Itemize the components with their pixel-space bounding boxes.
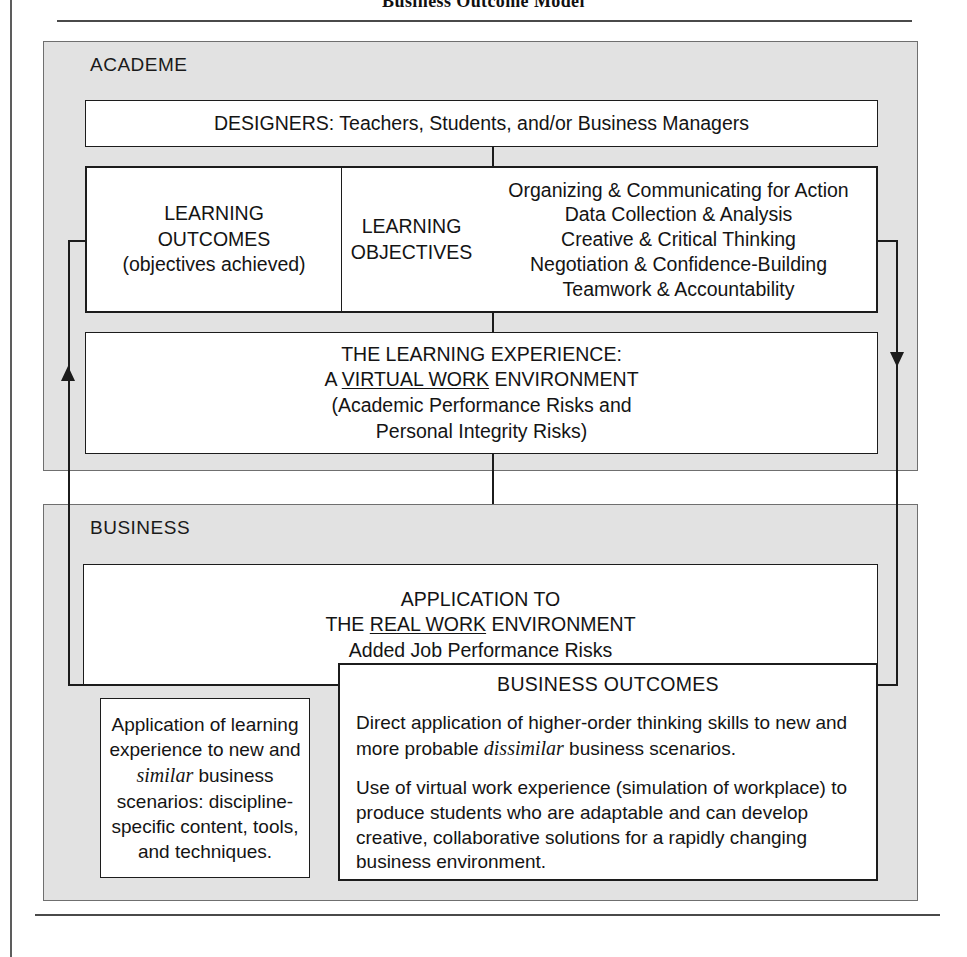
academe-label: ACADEME — [90, 54, 187, 76]
left-loop-vertical-segment — [68, 240, 70, 686]
application-line2-pre: THE — [325, 613, 369, 635]
left-loop-top-segment — [68, 240, 87, 242]
right-loop-bottom-segment — [876, 684, 898, 686]
learning-outcomes-line1: LEARNING — [164, 201, 264, 226]
skill-item: Creative & Critical Thinking — [561, 227, 796, 252]
learning-objectives-line2: OBJECTIVES — [351, 240, 472, 265]
learning-objectives-column: LEARNING OBJECTIVES — [341, 168, 481, 311]
learning-box: LEARNING OUTCOMES (objectives achieved) … — [85, 166, 878, 313]
experience-line4: Personal Integrity Risks) — [376, 419, 587, 445]
page-edge-rule — [10, 0, 12, 957]
learning-outcomes-line2: OUTCOMES — [158, 227, 271, 252]
arrow-down-icon — [890, 352, 904, 367]
left-application-box: Application of learning experience to ne… — [100, 698, 310, 878]
left-application-text: Application of learning experience to ne… — [101, 712, 309, 864]
experience-line3: (Academic Performance Risks and — [331, 393, 631, 419]
experience-line2-pre: A — [324, 368, 341, 390]
application-line2: THE REAL WORK ENVIRONMENT — [325, 612, 635, 637]
learning-outcomes-column: LEARNING OUTCOMES (objectives achieved) — [87, 168, 341, 311]
experience-line2: A VIRTUAL WORK ENVIRONMENT — [324, 367, 638, 393]
figure-title: Business Outcome Model — [0, 0, 967, 12]
footer-divider-rule — [35, 914, 940, 916]
connector-learning-to-experience — [492, 313, 494, 332]
left-application-italic: similar — [137, 764, 194, 786]
experience-line2-underline: VIRTUAL WORK — [342, 368, 489, 390]
learning-experience-box: THE LEARNING EXPERIENCE: A VIRTUAL WORK … — [85, 332, 878, 454]
skill-item: Teamwork & Accountability — [563, 277, 795, 302]
skill-item: Negotiation & Confidence-Building — [530, 252, 827, 277]
connector-designers-to-learning — [492, 147, 494, 166]
business-outcomes-heading: BUSINESS OUTCOMES — [356, 673, 860, 697]
skills-column: Organizing & Communicating for Action Da… — [481, 168, 876, 311]
title-divider-rule — [57, 20, 912, 22]
learning-objectives-line1: LEARNING — [362, 214, 462, 239]
application-line2-post: ENVIRONMENT — [486, 613, 636, 635]
application-line1: APPLICATION TO — [401, 587, 560, 612]
business-outcomes-box: BUSINESS OUTCOMES Direct application of … — [338, 663, 878, 881]
business-outcomes-paragraph-1: Direct application of higher-order think… — [356, 711, 860, 762]
experience-line2-post: ENVIRONMENT — [489, 368, 639, 390]
business-label: BUSINESS — [90, 517, 190, 539]
application-line2-underline: REAL WORK — [370, 613, 486, 635]
designers-text: DESIGNERS: Teachers, Students, and/or Bu… — [214, 112, 749, 136]
learning-outcomes-line3: (objectives achieved) — [122, 252, 305, 277]
outcomes-p1-post: business scenarios. — [564, 738, 736, 759]
outcomes-p1-italic: dissimilar — [484, 737, 564, 759]
business-outcomes-paragraph-2: Use of virtual work experience (simulati… — [356, 776, 860, 875]
application-line3: Added Job Performance Risks — [349, 638, 612, 663]
experience-line1: THE LEARNING EXPERIENCE: — [341, 342, 622, 368]
skill-item: Data Collection & Analysis — [565, 202, 793, 227]
skill-item: Organizing & Communicating for Action — [508, 178, 848, 203]
right-loop-top-segment — [876, 240, 898, 242]
left-application-pre: Application of learning experience to ne… — [109, 714, 300, 760]
right-loop-vertical-segment — [896, 240, 898, 686]
arrow-up-icon — [61, 366, 75, 381]
left-loop-bottom-segment — [68, 684, 340, 686]
designers-box: DESIGNERS: Teachers, Students, and/or Bu… — [85, 100, 878, 147]
